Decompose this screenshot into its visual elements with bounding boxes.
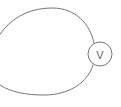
circuit-diagram: V [0, 0, 121, 107]
wire-loop-lower-path [0, 56, 93, 95]
wire-loop-upper-path [0, 8, 94, 92]
circuit-schematic-canvas: V [0, 0, 121, 107]
voltmeter-label: V [96, 49, 104, 61]
